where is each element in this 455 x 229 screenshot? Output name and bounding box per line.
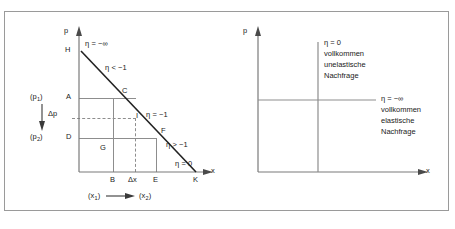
quantity-label-x2: (x2) — [139, 191, 151, 200]
elastic-line-2: elastische — [381, 116, 421, 127]
right-axis-label-p: p — [243, 26, 247, 35]
elastic-demand-annotation: η = −∞ vollkommen elastische Nachfrage — [381, 94, 421, 138]
point-label-b: B — [110, 175, 115, 184]
price-label-p2: (p2) — [30, 132, 43, 141]
point-label-d: D — [66, 132, 72, 141]
left-axis-label-x: x — [211, 166, 215, 175]
elasticity-label-equals-minus-one: η = −1 — [146, 110, 168, 119]
price-label-p1-subscript: 1 — [37, 96, 40, 102]
price-label-p2-subscript: 2 — [37, 136, 40, 142]
line-a-to-c — [79, 98, 136, 99]
point-label-i: I — [136, 111, 138, 120]
inelastic-eta-label: η = 0 — [324, 38, 366, 49]
price-label-p1-close: ) — [40, 92, 43, 101]
quantity-label-x1-close: ) — [98, 191, 101, 200]
figure-container: p x H A C I D F G B E K η = −∞ η < −1 η … — [0, 0, 455, 229]
price-label-p1: (p1) — [30, 92, 43, 101]
left-axis-label-p: p — [64, 26, 68, 35]
elastic-line-3: Nachfrage — [381, 127, 421, 138]
line-d-to-f — [79, 138, 157, 139]
price-label-p2-text: (p — [30, 132, 37, 141]
price-label-delta-p: Δp — [48, 109, 57, 118]
point-label-e: E — [153, 175, 158, 184]
point-label-c: C — [122, 86, 128, 95]
dashed-line-midpoint-vertical — [135, 118, 136, 172]
elasticity-label-less-than-minus-one: η < −1 — [105, 63, 127, 72]
quantity-label-x2-close: ) — [149, 191, 152, 200]
quantity-label-x1-subscript: 1 — [94, 195, 97, 201]
inelastic-demand-annotation: η = 0 vollkommen unelastische Nachfrage — [324, 38, 366, 82]
quantity-label-delta-x: Δx — [128, 175, 137, 184]
inelastic-line-1: vollkommen — [324, 49, 366, 60]
quantity-label-x1: (x1) — [88, 191, 100, 200]
line-c-to-b — [113, 98, 114, 172]
elasticity-label-greater-than-minus-one: η > −1 — [166, 140, 188, 149]
elasticity-label-minus-infinity: η = −∞ — [85, 39, 108, 48]
right-axis-label-x: x — [426, 166, 430, 175]
point-label-k: K — [193, 175, 198, 184]
price-label-p1-text: (p — [30, 92, 37, 101]
inelastic-line-2: unelastische — [324, 60, 366, 71]
line-f-to-e — [156, 138, 157, 172]
point-label-h: H — [65, 45, 71, 54]
elastic-eta-label: η = −∞ — [381, 94, 421, 105]
price-label-p2-close: ) — [40, 132, 43, 141]
inelastic-line-3: Nachfrage — [324, 71, 366, 82]
elastic-line-1: vollkommen — [381, 105, 421, 116]
quantity-label-x2-subscript: 2 — [145, 195, 148, 201]
elasticity-label-equals-zero: η = 0 — [175, 159, 192, 168]
point-label-g: G — [100, 143, 106, 152]
dashed-line-midpoint-horizontal — [72, 118, 136, 119]
point-label-a: A — [66, 92, 71, 101]
point-label-f: F — [161, 126, 166, 135]
